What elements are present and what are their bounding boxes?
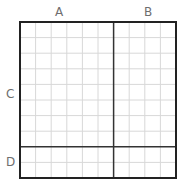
area-grid [0,0,184,194]
